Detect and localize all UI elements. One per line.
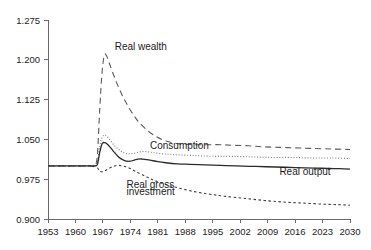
annotation-real-wealth: Real wealth	[115, 41, 167, 52]
y-axis: 0.9000.9751.0501.1251.2001.275	[16, 15, 48, 225]
chart-container: 0.9000.9751.0501.1251.2001.275 195319601…	[0, 0, 371, 250]
annotation-real-gross-investment-2: investment	[126, 186, 175, 197]
line-chart: 0.9000.9751.0501.1251.2001.275 195319601…	[0, 0, 371, 250]
x-tick-label: 2002	[230, 226, 251, 237]
y-tick-label: 0.975	[16, 174, 40, 185]
x-tick-label: 1995	[202, 226, 223, 237]
annotation-real-output: Real output	[279, 166, 330, 177]
x-axis: 1953196019671974198119881995200220092016…	[37, 219, 360, 237]
x-tick-label: 2023	[312, 226, 333, 237]
y-tick-label: 1.200	[16, 54, 40, 65]
y-tick-label: 1.050	[16, 134, 40, 145]
x-tick-label: 1953	[37, 226, 58, 237]
annotation-consumption: Consumption	[150, 140, 209, 151]
y-tick-label: 0.900	[16, 214, 40, 225]
y-tick-label: 1.275	[16, 15, 40, 26]
x-tick-label: 1960	[65, 226, 86, 237]
x-tick-label: 1974	[120, 226, 141, 237]
x-tick-label: 1967	[92, 226, 113, 237]
x-tick-label: 2016	[285, 226, 306, 237]
series-layer	[48, 54, 350, 205]
x-tick-label: 2009	[257, 226, 278, 237]
x-tick-label: 1988	[175, 226, 196, 237]
x-tick-label: 2030	[339, 226, 360, 237]
x-tick-label: 1981	[147, 226, 168, 237]
annotation-layer: Real wealthConsumptionReal outputReal gr…	[115, 41, 331, 197]
y-tick-label: 1.125	[16, 94, 40, 105]
